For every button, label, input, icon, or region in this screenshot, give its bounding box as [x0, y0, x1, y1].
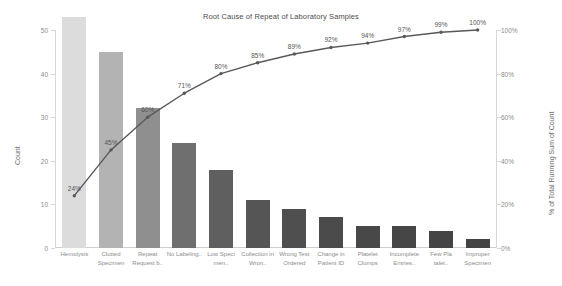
- line-point[interactable]: [439, 30, 442, 33]
- x-axis-label: No Labeling..: [166, 250, 203, 259]
- x-axis-label: Platelet Clumps: [349, 250, 386, 267]
- line-point-label: 24%: [68, 185, 81, 192]
- y-axis-right-tick: [497, 30, 501, 31]
- y-axis-right-tick-label: 80%: [501, 70, 531, 77]
- y-axis-left-tick: [51, 161, 55, 162]
- y-axis-left-tick-label: 40: [22, 70, 48, 77]
- line-point[interactable]: [73, 194, 76, 197]
- x-axis-label: Repeat Request b..: [129, 250, 166, 267]
- x-axis-label: Few Pla talet..: [423, 250, 460, 267]
- y-axis-left-tick-label: 50: [22, 27, 48, 34]
- line-point[interactable]: [109, 148, 112, 151]
- y-axis-right-tick-label: 100%: [501, 27, 531, 34]
- line-point-label: 97%: [398, 26, 411, 33]
- y-axis-left-tick: [51, 30, 55, 31]
- y-axis-left-tick: [51, 204, 55, 205]
- line-point[interactable]: [476, 28, 479, 31]
- y-axis-right-tick-label: 60%: [501, 114, 531, 121]
- x-axis-label: Wrong Test Ordered: [276, 250, 313, 267]
- line-point[interactable]: [293, 52, 296, 55]
- y-axis-left-tick-label: 10: [22, 201, 48, 208]
- y-axis-right-line: [496, 30, 497, 248]
- line-point-label: 89%: [288, 43, 301, 50]
- y-axis-right-tick: [497, 161, 501, 162]
- line-point-label: 85%: [251, 52, 264, 59]
- y-axis-left-title: Count: [14, 146, 21, 165]
- y-axis-right-tick: [497, 74, 501, 75]
- y-axis-left-tick-label: 20: [22, 157, 48, 164]
- line-point[interactable]: [183, 92, 186, 95]
- y-axis-right-title: % of Total Running Sum of Count: [548, 112, 555, 215]
- line-point[interactable]: [329, 46, 332, 49]
- cumulative-line: [74, 30, 477, 196]
- x-axis-label: Low Speci men..: [203, 250, 240, 267]
- line-point-label: 45%: [104, 139, 117, 146]
- y-axis-right-tick: [497, 248, 501, 249]
- y-axis-right-tick: [497, 117, 501, 118]
- y-axis-right-tick-label: 20%: [501, 201, 531, 208]
- x-axis-label: Change in Patient ID: [313, 250, 350, 267]
- x-axis-label: Clotted Specimen: [93, 250, 130, 267]
- x-axis-label: Collection in Wron..: [239, 250, 276, 267]
- y-axis-left-tick-label: 0: [22, 245, 48, 252]
- pareto-chart: Root Cause of Repeat of Laboratory Sampl…: [0, 0, 562, 286]
- line-point[interactable]: [256, 61, 259, 64]
- y-axis-left-tick: [51, 248, 55, 249]
- line-point[interactable]: [146, 116, 149, 119]
- line-point[interactable]: [366, 41, 369, 44]
- y-axis-right-tick: [497, 204, 501, 205]
- line-point-label: 92%: [324, 36, 337, 43]
- y-axis-left-tick: [51, 117, 55, 118]
- line-point[interactable]: [219, 72, 222, 75]
- line-point-label: 80%: [214, 63, 227, 70]
- line-point[interactable]: [403, 35, 406, 38]
- line-point-label: 71%: [178, 82, 191, 89]
- cumulative-line-series: [56, 30, 496, 248]
- x-axis-labels: HemolysisClotted SpecimenRepeat Request …: [56, 250, 496, 284]
- x-axis-label: Hemolysis: [56, 250, 93, 259]
- x-axis-label: Improper Specimen: [459, 250, 496, 267]
- y-axis-left-tick: [51, 74, 55, 75]
- y-axis-left-tick-label: 30: [22, 114, 48, 121]
- line-point-label: 60%: [141, 106, 154, 113]
- x-axis-label: Incomplete Entries..: [386, 250, 423, 267]
- y-axis-right-tick-label: 40%: [501, 157, 531, 164]
- y-axis-right-tick-label: 0%: [501, 245, 531, 252]
- line-point-label: 99%: [434, 21, 447, 28]
- line-point-label: 100%: [469, 19, 486, 26]
- line-point-label: 94%: [361, 32, 374, 39]
